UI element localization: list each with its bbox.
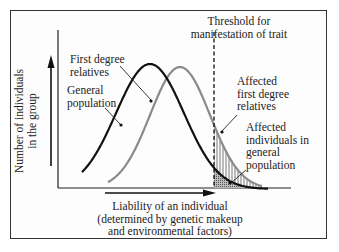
x-arrow-head bbox=[203, 190, 216, 197]
label-line: and environmental factors) bbox=[80, 225, 260, 238]
threshold-label: Threshold for manifestation of trait bbox=[174, 15, 304, 40]
label-line: first degree bbox=[237, 88, 289, 101]
label-line: General bbox=[67, 84, 116, 97]
label-line: population bbox=[67, 97, 116, 110]
threshold-label-line: manifestation of trait bbox=[174, 28, 304, 41]
label-line: Liability of an individual bbox=[80, 200, 260, 213]
label-line: relatives bbox=[70, 66, 125, 79]
label-line: relatives bbox=[237, 100, 289, 113]
leader-dot-first-degree bbox=[149, 99, 152, 102]
general-population-label: General population bbox=[67, 84, 116, 109]
x-axis-label: Liability of an individual (determined b… bbox=[80, 200, 260, 238]
y-arrow-head bbox=[48, 55, 55, 68]
affected-general-population-label: Affected individuals in general populati… bbox=[246, 121, 309, 171]
label-line: (determined by genetic makeup bbox=[80, 213, 260, 226]
label-line: population bbox=[246, 159, 309, 172]
first-degree-relatives-label: First degree relatives bbox=[70, 53, 125, 78]
leader-affected-relatives bbox=[222, 115, 237, 131]
leader-dot-affected-relatives bbox=[220, 130, 223, 133]
affected-first-degree-relatives-label: Affected first degree relatives bbox=[237, 75, 289, 113]
label-line: individuals in bbox=[246, 134, 309, 147]
leader-dot-general bbox=[119, 123, 122, 126]
label-line: Number of individuals bbox=[13, 56, 26, 186]
label-line: First degree bbox=[70, 53, 125, 66]
leader-dot-affected-general bbox=[228, 181, 231, 184]
label-line: Affected bbox=[237, 75, 289, 88]
y-axis-label: Number of individuals in the group bbox=[13, 56, 38, 186]
threshold-label-line: Threshold for bbox=[174, 15, 304, 28]
label-line: Affected bbox=[246, 121, 309, 134]
label-line: general bbox=[246, 146, 309, 159]
label-line: in the group bbox=[26, 56, 39, 186]
